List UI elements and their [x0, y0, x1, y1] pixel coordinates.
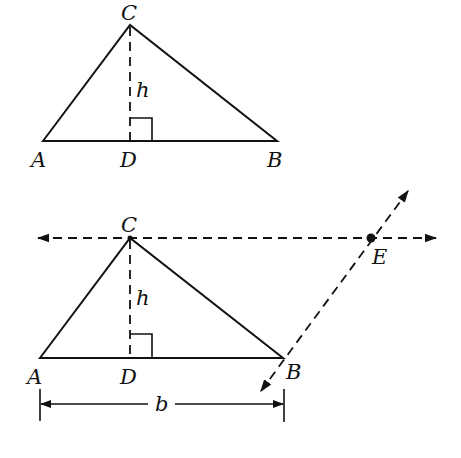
- base-dimension-b: b: [40, 389, 284, 422]
- right-angle-marker-bottom: [130, 334, 152, 358]
- label-e: E: [371, 245, 387, 269]
- label-b-length: b: [155, 392, 168, 416]
- label-h-bottom: h: [136, 286, 150, 310]
- label-a: A: [29, 148, 46, 172]
- label-c-bottom: C: [121, 213, 137, 237]
- line-be: [261, 191, 408, 391]
- triangle-abc-bottom: [40, 238, 283, 358]
- label-h: h: [136, 78, 150, 102]
- triangle-area-diagram: C h A D B C h A D B E b: [0, 0, 461, 458]
- point-e: [367, 234, 376, 243]
- label-a-bottom: A: [25, 365, 42, 389]
- top-triangle-figure: C h A D B: [29, 1, 282, 172]
- label-c: C: [121, 1, 137, 25]
- label-b-bottom: B: [285, 360, 301, 384]
- triangle-abc: [43, 25, 277, 141]
- label-d: D: [119, 148, 137, 172]
- label-b: B: [266, 148, 282, 172]
- label-d-bottom: D: [119, 365, 137, 389]
- bottom-triangle-figure: C h A D B E b: [25, 191, 436, 422]
- right-angle-marker: [130, 118, 152, 141]
